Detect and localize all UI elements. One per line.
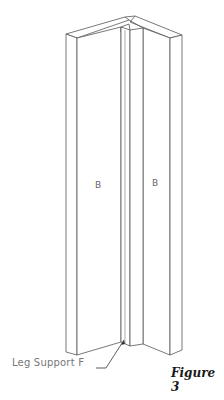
right-board-label: B [152,178,158,188]
figure-canvas: B B Leg Support F Figure 3 [0,0,224,400]
leg-support-f [121,16,143,346]
figure-caption: Figure 3 [171,366,224,394]
leg-assembly-drawing [0,0,224,400]
leg-support-callout: Leg Support F [12,357,84,368]
left-board-label: B [95,180,101,190]
